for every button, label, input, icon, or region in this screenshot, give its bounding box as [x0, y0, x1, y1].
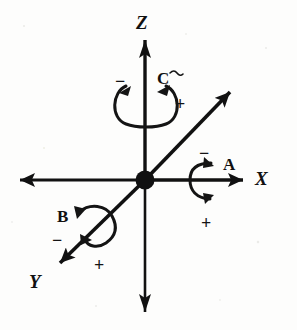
rotation-b-minus-sign: −: [52, 231, 62, 249]
rotation-c-minus-sign: −: [115, 72, 125, 90]
axis-label-x: X: [255, 169, 268, 188]
rotation-label-b: B: [57, 208, 68, 225]
rotation-arc-a-arrow-bottom: [203, 193, 214, 204]
axes-diagram-svg: [0, 0, 297, 330]
c-tilde-mark: [170, 71, 183, 75]
rotation-c-plus-sign: +: [175, 95, 185, 113]
rotation-a-minus-sign: −: [199, 144, 209, 162]
rotation-label-a: A: [223, 156, 235, 173]
rotation-arc-b: [74, 206, 115, 246]
axis-label-z: Z: [136, 13, 148, 32]
origin-dot: [136, 171, 155, 190]
rotation-a-plus-sign: +: [201, 214, 211, 232]
axis-label-y: Y: [29, 272, 41, 291]
rotation-label-c: C: [157, 70, 169, 87]
axis-y-negative: [145, 92, 230, 180]
coordinate-axes-figure: X Y Z A − + B − + C − +: [0, 0, 297, 330]
axis-y-positive: [60, 180, 145, 263]
rotation-b-plus-sign: +: [94, 256, 104, 274]
